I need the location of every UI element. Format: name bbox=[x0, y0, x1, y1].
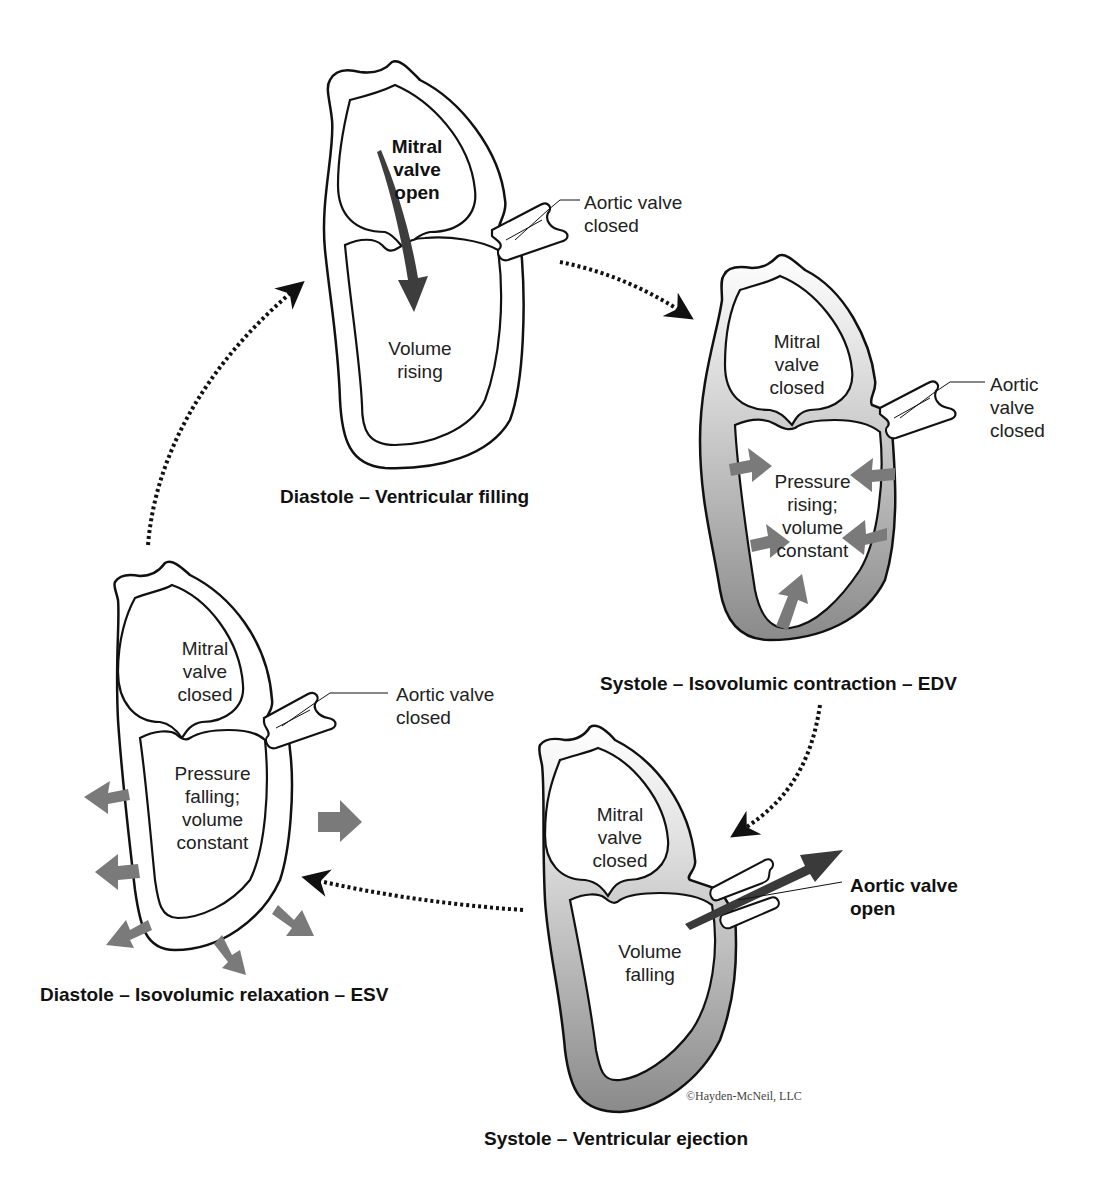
label-line: closed bbox=[990, 419, 1045, 442]
label-line: closed bbox=[752, 376, 842, 399]
panel-caption: Systole – Ventricular ejection bbox=[484, 1128, 748, 1150]
label-line: Pressure bbox=[160, 762, 265, 785]
label-line: falling bbox=[600, 963, 700, 986]
panel-systole-ejection bbox=[539, 726, 843, 1112]
label-line: Mitral bbox=[372, 135, 462, 158]
label-line: rising bbox=[370, 360, 470, 383]
label-line: Mitral bbox=[160, 637, 250, 660]
ventricle-state-label: Pressure rising; volume constant bbox=[760, 470, 865, 562]
mitral-valve-closed-label: Mitral valve closed bbox=[575, 803, 665, 872]
label-line: Aortic valve bbox=[584, 191, 682, 214]
aortic-valve-label: Aortic valve closed bbox=[396, 683, 494, 729]
label-line: volume bbox=[760, 516, 865, 539]
label-line: Aortic bbox=[990, 373, 1045, 396]
panel-caption: Diastole – Isovolumic relaxation – ESV bbox=[40, 984, 388, 1006]
aortic-valve-label: Aortic valve closed bbox=[584, 191, 682, 237]
mitral-valve-closed-label: Mitral valve closed bbox=[752, 330, 842, 399]
panel-diastole-filling bbox=[324, 61, 580, 468]
aortic-valve-open-label: Aortic valve open bbox=[850, 874, 958, 920]
label-line: Mitral bbox=[752, 330, 842, 353]
cycle-arrow-contraction-to-ejection bbox=[742, 705, 820, 830]
label-line: open bbox=[850, 897, 958, 920]
label-line: Aortic valve bbox=[396, 683, 494, 706]
label-line: constant bbox=[760, 539, 865, 562]
aortic-valve-label: Aortic valve closed bbox=[990, 373, 1045, 442]
label-line: Volume bbox=[600, 940, 700, 963]
label-line: valve bbox=[372, 158, 462, 181]
diagram-canvas bbox=[0, 0, 1110, 1185]
panel-caption: Diastole – Ventricular filling bbox=[280, 486, 529, 508]
mitral-valve-closed-label: Mitral valve closed bbox=[160, 637, 250, 706]
copyright-notice: ©Hayden-McNeil, LLC bbox=[686, 1089, 802, 1104]
cycle-arrow-relaxation-to-filling bbox=[148, 290, 294, 545]
label-line: closed bbox=[575, 849, 665, 872]
label-line: volume bbox=[160, 808, 265, 831]
label-line: closed bbox=[584, 214, 682, 237]
cardiac-cycle-diagram: Mitral valve open Aortic valve closed Vo… bbox=[0, 0, 1110, 1185]
label-line: valve bbox=[575, 826, 665, 849]
ventricle-state-label: Volume rising bbox=[370, 337, 470, 383]
label-line: closed bbox=[160, 683, 250, 706]
label-line: Pressure bbox=[760, 470, 865, 493]
ventricle-state-label: Pressure falling; volume constant bbox=[160, 762, 265, 854]
label-line: Mitral bbox=[575, 803, 665, 826]
label-line: constant bbox=[160, 831, 265, 854]
label-line: closed bbox=[396, 706, 494, 729]
ventricle-state-label: Volume falling bbox=[600, 940, 700, 986]
label-line: valve bbox=[160, 660, 250, 683]
label-line: rising; bbox=[760, 493, 865, 516]
label-line: Aortic valve bbox=[850, 874, 958, 897]
label-line: Volume bbox=[370, 337, 470, 360]
label-line: valve bbox=[990, 396, 1045, 419]
label-line: valve bbox=[752, 353, 842, 376]
label-line: open bbox=[372, 181, 462, 204]
cycle-arrow-ejection-to-relaxation bbox=[315, 880, 523, 910]
mitral-valve-open-label: Mitral valve open bbox=[372, 135, 462, 204]
label-line: falling; bbox=[160, 785, 265, 808]
cycle-arrow-filling-to-contraction bbox=[560, 262, 682, 312]
panel-systole-isovolumic-contraction bbox=[700, 255, 985, 640]
panel-caption: Systole – Isovolumic contraction – EDV bbox=[600, 673, 957, 695]
